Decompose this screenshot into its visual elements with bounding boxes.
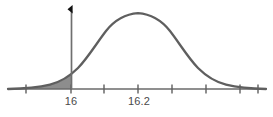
normal-distribution-curve (8, 13, 266, 89)
normal-curve-figure: 16 16.2 (0, 0, 273, 117)
x-tick-label-16-2: 16.2 (128, 96, 150, 107)
left-arrowhead-icon (68, 5, 73, 14)
x-tick-label-16: 16 (65, 96, 78, 107)
